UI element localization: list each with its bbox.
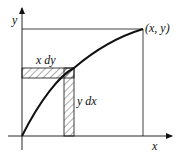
vertical-strip-y-dx bbox=[64, 68, 74, 136]
x-axis-label: x bbox=[151, 139, 158, 153]
y-axis-label: y bbox=[11, 13, 18, 27]
curve bbox=[22, 29, 143, 136]
vertical-strip-label: y dx bbox=[76, 94, 97, 108]
point-label: (x, y) bbox=[145, 21, 170, 35]
horizontal-strip-label: x dy bbox=[35, 53, 56, 67]
integration-by-parts-diagram: y x (x, y) x dy y dx bbox=[0, 0, 179, 159]
